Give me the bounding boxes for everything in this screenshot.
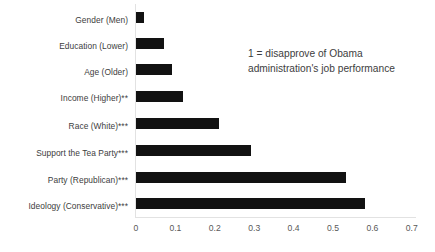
- plot-area: [135, 0, 435, 218]
- x-tick-label: 0.2: [209, 223, 221, 234]
- chart-annotation: 1 = disapprove of Obama administration's…: [248, 47, 423, 76]
- category-label: Ideology (Conservative)***: [0, 201, 128, 211]
- category-label: Education (Lower): [0, 41, 128, 51]
- bar-chart: Gender (Men) Education (Lower) Age (Olde…: [0, 0, 435, 252]
- category-label: Age (Older): [0, 67, 128, 77]
- x-tick-label: 0: [134, 223, 139, 234]
- value-axis-line: [135, 4, 136, 217]
- bar-tea-party: [136, 145, 251, 156]
- category-axis: Gender (Men) Education (Lower) Age (Olde…: [0, 0, 132, 218]
- category-label: Race (White)***: [0, 121, 128, 131]
- bar-ideology: [136, 198, 365, 209]
- x-tick-label: 0.5: [327, 223, 339, 234]
- value-axis: 0 0.1 0.2 0.3 0.4 0.5 0.6 0.7: [135, 217, 435, 252]
- category-label: Party (Republican)***: [0, 175, 128, 185]
- bar-race: [136, 118, 219, 129]
- value-axis-rule: [135, 217, 416, 218]
- x-tick-label: 0.6: [366, 223, 378, 234]
- bar-education: [136, 38, 164, 49]
- bar-income: [136, 91, 183, 102]
- bar-party: [136, 172, 346, 183]
- x-tick-label: 0.4: [288, 223, 300, 234]
- bar-age: [136, 64, 172, 75]
- category-label: Gender (Men): [0, 15, 128, 25]
- x-tick-label: 0.7: [406, 223, 418, 234]
- x-tick-label: 0.1: [169, 223, 181, 234]
- bar-gender: [136, 12, 144, 23]
- x-tick-label: 0.3: [248, 223, 260, 234]
- category-label: Support the Tea Party***: [0, 148, 128, 158]
- category-label: Income (Higher)**: [0, 93, 128, 103]
